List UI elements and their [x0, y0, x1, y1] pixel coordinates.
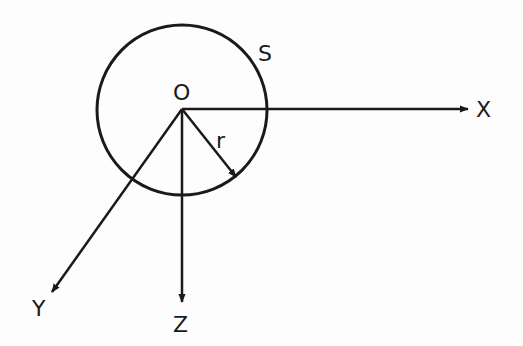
- y-axis: [52, 109, 182, 292]
- x-axis-label: X: [476, 97, 491, 122]
- z-axis-label: Z: [173, 312, 188, 337]
- diagram-canvas: O S r X Y Z: [0, 0, 523, 346]
- radius-r: [182, 109, 236, 177]
- origin-label: O: [173, 80, 190, 105]
- y-axis-label: Y: [31, 296, 46, 321]
- diagram-svg: O S r X Y Z: [0, 0, 523, 346]
- sphere-label: S: [258, 41, 272, 66]
- radius-label: r: [216, 128, 226, 153]
